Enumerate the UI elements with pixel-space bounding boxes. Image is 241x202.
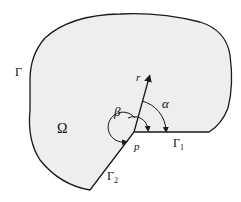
omega-label: Ω xyxy=(57,121,67,136)
domain-omega-boundary xyxy=(29,14,231,190)
alpha-label: α xyxy=(162,96,170,111)
gamma1-label: Γ1 xyxy=(173,136,184,152)
point-p-label: p xyxy=(133,140,140,152)
gamma2-label: Γ2 xyxy=(107,169,118,185)
ray-r-label: r xyxy=(136,71,141,83)
gamma-label: Γ xyxy=(15,65,22,79)
domain-diagram: Ω Γ Γ1 Γ2 p r α β xyxy=(0,0,241,202)
beta-label: β xyxy=(113,104,121,119)
